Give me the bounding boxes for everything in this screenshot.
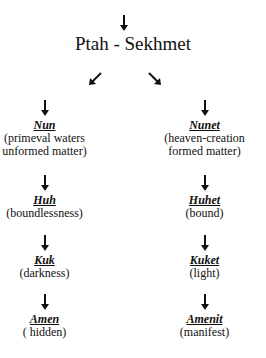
node-description: (darkness)	[0, 267, 111, 280]
down-arrow-icon	[40, 175, 50, 191]
node-name: Kuket	[138, 253, 266, 267]
node-description: (primeval waters unformed matter)	[0, 132, 111, 158]
node-huhet: Huhet (bound)	[138, 175, 266, 220]
left-column-masculine: Nun (primeval waters unformed matter) Hu…	[0, 0, 111, 358]
node-name: Amen	[0, 312, 111, 326]
node-name: Kuk	[0, 253, 111, 267]
node-name: Huh	[0, 193, 111, 207]
node-description: (boundlessness)	[0, 207, 111, 220]
node-nun: Nun (primeval waters unformed matter)	[0, 100, 111, 158]
node-name: Huhet	[138, 193, 266, 207]
node-amen: Amen ( hidden)	[0, 294, 111, 339]
node-description: (light)	[138, 267, 266, 280]
node-huh: Huh (boundlessness)	[0, 175, 111, 220]
node-kuk: Kuk (darkness)	[0, 235, 111, 280]
node-name: Nunet	[138, 118, 266, 132]
node-description: (manifest)	[138, 326, 266, 339]
node-description: (bound)	[138, 207, 266, 220]
down-arrow-icon	[40, 100, 50, 116]
node-name: Nun	[0, 118, 111, 132]
right-column-feminine: Nunet (heaven-creation formed matter) Hu…	[138, 0, 266, 358]
node-description: (heaven-creation formed matter)	[138, 132, 266, 158]
down-arrow-icon	[200, 235, 210, 251]
node-description: ( hidden)	[0, 326, 111, 339]
node-amenit: Amenit (manifest)	[138, 294, 266, 339]
down-arrow-icon	[40, 235, 50, 251]
node-nunet: Nunet (heaven-creation formed matter)	[138, 100, 266, 158]
down-arrow-icon	[119, 15, 129, 31]
down-arrow-icon	[200, 294, 210, 310]
node-kuket: Kuket (light)	[138, 235, 266, 280]
node-name: Amenit	[138, 312, 266, 326]
down-arrow-icon	[200, 100, 210, 116]
down-arrow-icon	[200, 175, 210, 191]
down-arrow-icon	[40, 294, 50, 310]
